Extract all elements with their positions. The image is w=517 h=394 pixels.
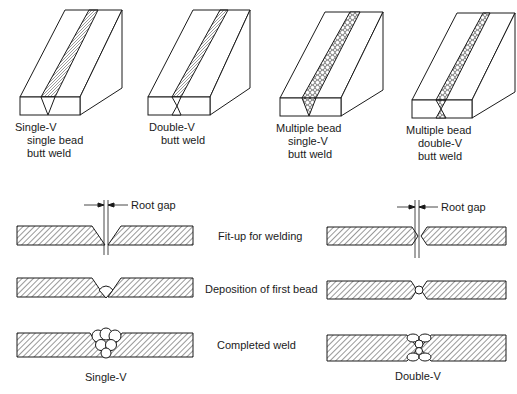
label-line: butt weld	[406, 150, 471, 163]
caption-double-v: Double-V	[395, 370, 441, 383]
label-line: butt weld	[276, 148, 341, 161]
label-line: Multiple bead	[276, 122, 341, 135]
block-multiple-bead-double-v	[412, 13, 515, 118]
welding-diagram	[0, 0, 517, 394]
label-multiple-bead-single-v: Multiple bead single-V butt weld	[276, 122, 341, 161]
stage-label-fitup: Fit-up for welding	[218, 230, 302, 243]
caption-single-v: Single-V	[85, 371, 127, 384]
label-line: double-V	[406, 137, 471, 150]
root-gap-label-left: Root gap	[131, 199, 176, 212]
label-multiple-bead-double-v: Multiple bead double-V butt weld	[406, 124, 471, 163]
xsec-single-v-completed	[17, 328, 193, 358]
block-double-v	[148, 10, 250, 115]
label-line: butt weld	[15, 147, 83, 160]
label-line: Single-V	[15, 121, 83, 134]
label-line: Multiple bead	[406, 124, 471, 137]
stage-label-completed: Completed weld	[217, 339, 296, 352]
label-line: single bead	[15, 134, 83, 147]
block-single-v-single-bead	[20, 10, 122, 115]
root-gap-label-right: Root gap	[441, 201, 486, 214]
xsec-single-v-first-bead	[17, 278, 193, 298]
block-multiple-bead-single-v	[280, 12, 383, 116]
stage-label-first-bead: Deposition of first bead	[205, 283, 318, 296]
label-double-v: Double-V butt weld	[149, 121, 205, 147]
xsec-double-v-completed	[327, 334, 506, 361]
xsec-double-v-first-bead	[327, 281, 506, 299]
label-single-v-single-bead: Single-V single bead butt weld	[15, 121, 83, 160]
label-line: butt weld	[149, 134, 205, 147]
label-line: Double-V	[149, 121, 205, 134]
label-line: single-V	[276, 135, 341, 148]
